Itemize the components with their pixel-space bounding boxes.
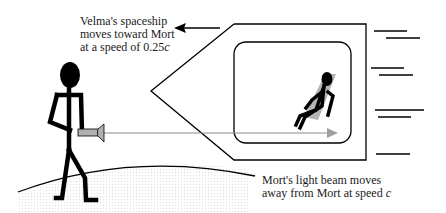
- light-beam-label: Mort's light beam moves away from Mort a…: [262, 174, 391, 200]
- ground-hill: [18, 164, 255, 213]
- speed-of-light-symbol: c: [164, 40, 169, 54]
- spaceship-velocity-arrow: [174, 23, 220, 33]
- velma-figure: [296, 72, 336, 128]
- beam-speed-text: away from Mort at speed: [262, 186, 386, 200]
- spaceship: [151, 24, 366, 160]
- spaceship-label-line-3: at a speed of 0.25c: [80, 41, 175, 54]
- motion-lines: [371, 31, 424, 154]
- spaceship-speed-value: at a speed of 0.25: [80, 40, 164, 54]
- light-beam-arrow: [104, 128, 338, 138]
- spaceship-hull: [151, 24, 366, 160]
- spaceship-window: [234, 42, 351, 143]
- spaceship-speed-label: Velma's spaceship moves toward Mort at a…: [80, 15, 175, 54]
- speed-of-light-symbol: c: [386, 186, 391, 200]
- mort-head: [60, 62, 80, 88]
- beam-label-line-2: away from Mort at speed c: [262, 187, 391, 200]
